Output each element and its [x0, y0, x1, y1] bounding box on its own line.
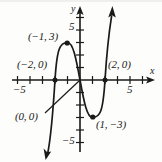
graph-figure: (−1, 3) (−2, 0) (2, 0) (0, 0) (1, −3) −5… — [0, 0, 162, 162]
point-label-origin: (0, 0) — [15, 111, 38, 122]
y-tick-label-minus-5: −5 — [62, 135, 75, 146]
x-axis-label: x — [150, 66, 154, 76]
x-axis — [12, 76, 155, 83]
point-label-root-positive: (2, 0) — [108, 59, 131, 70]
origin-leader-line — [45, 81, 79, 113]
x-tick-label-5: 5 — [127, 84, 132, 95]
coordinate-plane — [0, 0, 162, 162]
x-tick-label-minus-5: −5 — [13, 84, 26, 95]
point-max — [65, 40, 70, 45]
point-label-root-negative: (−2, 0) — [17, 59, 47, 70]
point-label-min: (1, −3) — [96, 119, 126, 130]
point-label-max: (−1, 3) — [28, 31, 58, 42]
point-root-neg — [53, 78, 58, 83]
point-root-pos — [103, 78, 108, 83]
y-axis-label: y — [71, 4, 75, 14]
y-tick-label-5: 5 — [69, 21, 74, 32]
point-min — [90, 114, 95, 119]
